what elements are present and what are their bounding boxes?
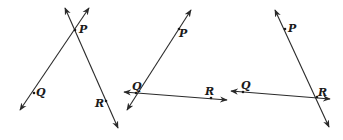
- point-p: [74, 29, 77, 32]
- line-2: [231, 91, 330, 99]
- point-label-p: P: [287, 22, 297, 35]
- point-label-q: Q: [36, 86, 46, 99]
- figure-1: PQR: [20, 8, 118, 128]
- point-p: [284, 28, 287, 31]
- point-r: [105, 100, 108, 103]
- point-q: [33, 92, 36, 95]
- figure-3: PQR: [231, 10, 330, 127]
- point-label-q: Q: [132, 80, 142, 93]
- point-label-p: P: [178, 27, 188, 40]
- point-label-r: R: [94, 97, 104, 110]
- point-label-q: Q: [241, 79, 251, 92]
- point-label-r: R: [317, 86, 327, 99]
- line-1: [275, 10, 329, 127]
- diagram-canvas: PQRPQRPQR: [0, 0, 343, 140]
- point-label-r: R: [204, 85, 214, 98]
- figure-2: PQR: [124, 10, 227, 110]
- point-label-p: P: [78, 23, 88, 36]
- line-2: [65, 8, 118, 128]
- geometry-diagram: PQRPQRPQR: [0, 0, 343, 140]
